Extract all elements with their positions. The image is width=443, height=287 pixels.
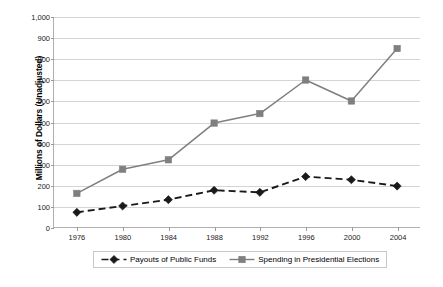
data-point-marker (239, 256, 245, 262)
data-point-marker (210, 186, 218, 194)
x-tick-mark (123, 227, 124, 231)
x-tick-mark (352, 227, 353, 231)
x-tick-label: 2004 (390, 233, 407, 242)
line-chart: Millions of Dollars (Unadjusted) 0100200… (0, 0, 443, 287)
x-tick-mark (398, 227, 399, 231)
x-tick-mark (77, 227, 78, 231)
legend-label: Spending in Presidential Elections (258, 255, 379, 264)
data-point-marker (256, 188, 264, 196)
legend-entry[interactable]: Spending in Presidential Elections (229, 255, 379, 264)
y-tick-label: 200 (37, 181, 50, 190)
data-point-marker (394, 45, 400, 51)
data-series-layer (54, 17, 420, 227)
data-point-marker (119, 166, 125, 172)
x-tick-mark (215, 227, 216, 231)
legend-swatch-diamond-icon (101, 255, 127, 264)
y-tick-label: 800 (37, 55, 50, 64)
x-tick-label: 1992 (252, 233, 269, 242)
plot-area: 01002003004005006007008009001,000 197619… (53, 17, 420, 228)
y-tick-label: 500 (37, 118, 50, 127)
x-tick-mark (260, 227, 261, 231)
data-point-marker (347, 176, 355, 184)
x-tick-label: 1996 (298, 233, 315, 242)
x-tick-label: 1976 (69, 233, 86, 242)
legend-entry[interactable]: Payouts of Public Funds (101, 255, 216, 264)
data-point-marker (302, 77, 308, 83)
series-spending-in-presidential-elections (74, 45, 401, 196)
y-tick-label: 700 (37, 76, 50, 85)
data-point-marker (73, 208, 81, 216)
series-payouts-of-public-funds (73, 173, 401, 217)
data-point-marker (74, 190, 80, 196)
data-point-marker (257, 110, 263, 116)
x-tick-mark (169, 227, 170, 231)
chart-legend: Payouts of Public FundsSpending in Presi… (93, 251, 387, 268)
y-tick-label: 0 (46, 224, 50, 233)
y-tick-label: 400 (37, 139, 50, 148)
data-point-marker (165, 157, 171, 163)
x-tick-label: 1984 (160, 233, 177, 242)
x-tick-label: 2000 (344, 233, 361, 242)
data-point-marker (164, 196, 172, 204)
y-tick-label: 600 (37, 97, 50, 106)
legend-label: Payouts of Public Funds (130, 255, 216, 264)
data-point-marker (119, 202, 127, 210)
data-point-marker (211, 120, 217, 126)
x-tick-label: 1988 (206, 233, 223, 242)
y-tick-label: 1,000 (31, 13, 50, 22)
data-point-marker (348, 98, 354, 104)
y-tick-mark (51, 228, 54, 229)
data-point-marker (110, 255, 118, 263)
x-tick-label: 1980 (114, 233, 131, 242)
y-tick-label: 100 (37, 202, 50, 211)
legend-swatch-square-icon (229, 255, 255, 264)
y-tick-label: 900 (37, 34, 50, 43)
data-point-marker (393, 182, 401, 190)
data-point-marker (302, 173, 310, 181)
x-tick-mark (306, 227, 307, 231)
y-tick-label: 300 (37, 160, 50, 169)
